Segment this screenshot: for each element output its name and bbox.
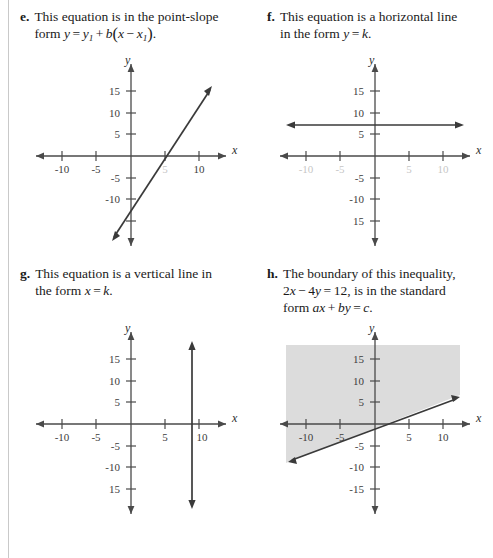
page-margin-rule [8, 0, 9, 558]
graph-e-xlabel--10: -10 [55, 163, 70, 175]
graph-f-ylabel--15: 15 [353, 215, 365, 227]
item-f: f. This equation is a horizontal line in… [267, 8, 479, 42]
item-h-line1: The boundary of this inequality, [283, 266, 456, 281]
graph-e-xlabel-5: 5 [162, 163, 168, 175]
graph-g-ylabel-5: 5 [115, 396, 121, 408]
item-e: e. This equation is in the point-slope f… [20, 8, 235, 47]
item-h: h. The boundary of this inequality, 2x−4… [267, 265, 479, 316]
graph-g-xlabel-10: 10 [197, 431, 209, 443]
item-h-letter: h. [267, 265, 278, 282]
graph-e-axis-name-x: x [231, 143, 238, 157]
item-g-line1: This equation is a vertical line in [35, 266, 212, 281]
item-h-text: The boundary of this inequality, 2x−4y=1… [283, 265, 479, 316]
item-f-letter: f. [267, 8, 275, 25]
graph-f-xlabel--5: -5 [335, 163, 345, 175]
graph-f-ylabel--10: -10 [349, 193, 364, 205]
graph-g-ylabel--10: -10 [105, 461, 120, 473]
graph-h-xlabel-10: 10 [438, 431, 450, 443]
item-h-label-row: h. The boundary of this inequality, 2x−4… [267, 265, 479, 316]
graph-h-ylabel-5: 5 [359, 396, 365, 408]
graph-f-axis-name-y: y [368, 53, 375, 67]
graph-g-series-line [188, 341, 195, 509]
graph-h-ylabel-10: 10 [353, 375, 365, 387]
item-e-text: This equation is in the point-slope form… [34, 8, 235, 47]
item-e-line2-prefix: form [34, 26, 64, 41]
graph-h-shaded-region [286, 345, 460, 463]
graph-f-ylabel-5: 5 [359, 128, 365, 140]
graph-f-xlabel-10: 10 [438, 163, 450, 175]
graph-f-axis-name-x: x [475, 143, 482, 157]
worksheet-page: e. This equation is in the point-slope f… [0, 0, 493, 558]
graph-g-axis-name-y: y [124, 321, 131, 335]
item-g-equation: x [85, 283, 91, 298]
item-f-line2-prefix: in the form [280, 26, 343, 41]
graph-e-xlabel-10: 10 [194, 163, 206, 175]
item-g-label-row: g. This equation is a vertical line in t… [20, 265, 235, 299]
item-e-letter: e. [20, 8, 29, 25]
graph-f-ylabel-10: 10 [353, 107, 365, 119]
item-e-label-row: e. This equation is in the point-slope f… [20, 8, 235, 47]
item-h-line3-prefix: form [283, 300, 313, 315]
item-f-line1: This equation is a horizontal line [280, 9, 457, 24]
graph-h-axis-name-y: y [368, 321, 375, 335]
graph-f-ylabel-15: 15 [353, 85, 365, 97]
graph-e-ylabel--5: -5 [111, 172, 121, 184]
graph-e-xlabel--5: -5 [91, 163, 101, 175]
graph-e-ylabel-15: 15 [109, 85, 121, 97]
graph-e: -10 -5 5 10 15 10 5 -5 -10 x y [18, 52, 246, 252]
item-e-line1: This equation is in the point-slope [34, 9, 218, 24]
graph-h-ylabel--10: -10 [349, 461, 364, 473]
graph-h-xlabel--10: -10 [299, 431, 314, 443]
graph-h-ylabel--5: -5 [355, 440, 365, 452]
item-g: g. This equation is a vertical line in t… [20, 265, 235, 299]
item-f-label-row: f. This equation is a horizontal line in… [267, 8, 479, 42]
graph-f-svg: -10 -5 5 10 15 10 5 -5 -10 15 x y [262, 52, 490, 252]
graph-h-xlabel-5: 5 [406, 431, 412, 443]
graph-e-axis-name-y: y [124, 53, 131, 67]
graph-h-ylabel-15: 15 [353, 353, 365, 365]
graph-g-ylabel-10: 10 [109, 375, 121, 387]
graph-g-svg: -10 -5 5 10 15 10 5 -5 -10 15 x y [18, 320, 246, 520]
graph-f-ylabel--5: -5 [355, 172, 365, 184]
graph-h-axis-name-x: x [475, 411, 482, 425]
graph-g: -10 -5 5 10 15 10 5 -5 -10 15 x y [18, 320, 246, 520]
graph-e-ylabel--10: -10 [105, 193, 120, 205]
graph-f: -10 -5 5 10 15 10 5 -5 -10 15 x y [262, 52, 490, 252]
graph-f-xlabel--10: -10 [299, 163, 314, 175]
graph-g-ylabel--5: -5 [111, 440, 121, 452]
graph-e-ylabel-5: 5 [115, 128, 121, 140]
graph-e-svg: -10 -5 5 10 15 10 5 -5 -10 x y [18, 52, 246, 252]
item-h-equation: ax [313, 300, 326, 315]
item-g-letter: g. [20, 265, 30, 282]
graph-e-ylabel-10: 10 [109, 107, 121, 119]
graph-g-ylabel--15: 15 [109, 483, 121, 495]
graph-h-svg: -10 -5 5 10 15 10 5 -5 -10 -15 x y [262, 320, 490, 520]
item-h-line2: 2x−4y=12, is in the standard [283, 283, 446, 298]
item-g-line2-prefix: the form [35, 283, 85, 298]
graph-g-xlabel-5: 5 [162, 431, 168, 443]
graph-f-xlabel-5: 5 [406, 163, 412, 175]
graph-h-ylabel--15: -15 [349, 483, 364, 495]
graph-g-xlabel--10: -10 [55, 431, 70, 443]
item-g-text: This equation is a vertical line in the … [35, 265, 235, 299]
item-f-text: This equation is a horizontal line in th… [280, 8, 479, 42]
graph-g-axis-name-x: x [231, 411, 238, 425]
graph-h: -10 -5 5 10 15 10 5 -5 -10 -15 x y [262, 320, 490, 520]
graph-g-ylabel-15: 15 [109, 353, 121, 365]
graph-g-xlabel--5: -5 [91, 431, 101, 443]
